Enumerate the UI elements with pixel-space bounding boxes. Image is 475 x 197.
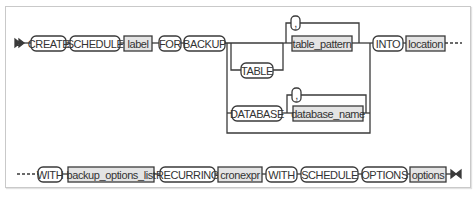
keyword-database-text: DATABASE [230, 108, 284, 120]
keyword-table-text: TABLE [241, 65, 273, 77]
param-options: options [410, 167, 446, 182]
keyword-schedule-2: SCHEDULE [301, 167, 358, 182]
keyword-options-text: OPTIONS [361, 169, 408, 181]
param-label: label [124, 36, 152, 51]
param-table-pattern-text: table_pattern [292, 38, 351, 50]
keyword-create: CREATE [28, 36, 69, 51]
keyword-into: INTO [373, 36, 403, 51]
database-comma-separator: , [292, 88, 301, 102]
keyword-for-text: FOR [159, 38, 181, 50]
keyword-schedule: SCHEDULE [67, 36, 124, 51]
param-location-text: location [408, 38, 443, 50]
start-marker-icon [15, 39, 24, 47]
keyword-backup-text: BACKUP [183, 38, 226, 50]
keyword-with-2: WITH [266, 167, 297, 182]
param-location: location [406, 36, 445, 51]
keyword-options: OPTIONS [361, 167, 408, 182]
keyword-backup: BACKUP [183, 36, 226, 51]
param-database-name: database_name [291, 106, 365, 121]
keyword-recurring-text: RECURRING [156, 169, 219, 181]
keyword-with-2-text: WITH [268, 169, 295, 181]
table-comma-separator: , [291, 16, 300, 30]
keyword-schedule-2-text: SCHEDULE [301, 169, 358, 181]
keyword-with-text: WITH [37, 169, 64, 181]
table-comma-text: , [294, 17, 297, 29]
param-table-pattern: table_pattern [292, 36, 352, 51]
keyword-into-text: INTO [376, 38, 401, 50]
syntax-diagram: CREATE SCHEDULE label FOR BACKUP TABLE ,… [0, 0, 475, 197]
keyword-recurring: RECURRING [156, 167, 219, 182]
keyword-schedule-text: SCHEDULE [67, 38, 124, 50]
param-cronexpr: cronexpr [218, 167, 262, 182]
keyword-create-text: CREATE [28, 38, 69, 50]
end-marker-icon [451, 170, 461, 178]
keyword-database: DATABASE [230, 106, 284, 121]
param-database-name-text: database_name [291, 108, 365, 120]
keyword-with: WITH [37, 167, 64, 182]
keyword-for: FOR [159, 36, 181, 51]
database-comma-text: , [295, 89, 298, 101]
param-options-text: options [412, 169, 446, 181]
param-label-text: label [127, 38, 148, 50]
param-backup-options-list-text: backup_options_list [66, 169, 155, 181]
keyword-table: TABLE [241, 63, 273, 78]
param-cronexpr-text: cronexpr [220, 169, 260, 181]
param-backup-options-list: backup_options_list [66, 167, 155, 182]
